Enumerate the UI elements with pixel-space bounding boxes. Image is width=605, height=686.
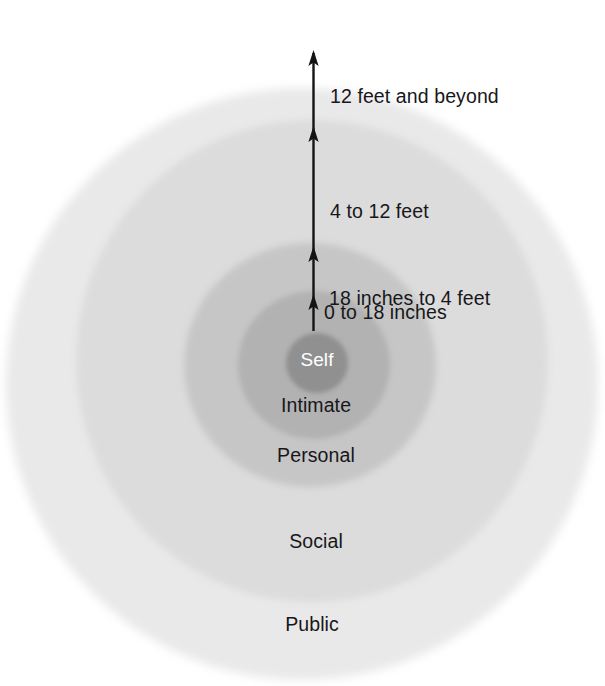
zone-label-social: Social — [289, 530, 343, 553]
distance-label-social: 4 to 12 feet — [330, 200, 429, 223]
zone-label-intimate: Intimate — [281, 394, 351, 417]
distance-label-public: 12 feet and beyond — [330, 85, 499, 108]
distance-arrow — [294, 40, 334, 340]
zone-label-public: Public — [285, 613, 339, 636]
zone-label-personal: Personal — [277, 444, 355, 467]
zone-label-self: Self — [300, 349, 333, 371]
distance-label-intimate: 0 to 18 inches — [324, 301, 447, 324]
proxemics-diagram: 12 feet and beyond 4 to 12 feet 18 inche… — [0, 0, 605, 686]
